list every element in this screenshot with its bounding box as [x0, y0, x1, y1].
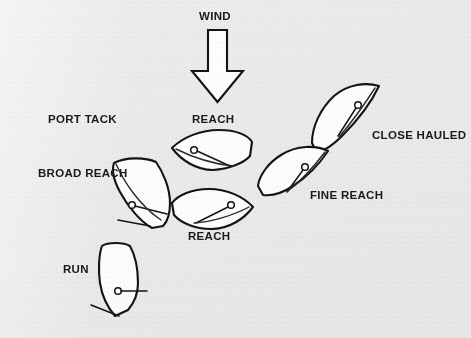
mast-close-hauled — [355, 102, 362, 109]
mast-reach-lower — [228, 202, 235, 209]
boat-run — [91, 243, 147, 316]
label-fine-reach: FINE REACH — [310, 190, 383, 202]
label-close-hauled: CLOSE HAULED — [372, 130, 466, 142]
label-port-tack: PORT TACK — [48, 114, 117, 126]
points-of-sail-figure: WIND PORT TACK REACH CLOSE HAULED BROAD … — [0, 0, 471, 338]
boat-fine-reach — [258, 147, 328, 195]
mast-broad-reach — [129, 202, 136, 209]
wind-arrow-icon — [192, 30, 243, 102]
boat-close-hauled — [312, 84, 379, 153]
boat-reach-lower — [172, 189, 253, 229]
label-reach-lower: REACH — [188, 231, 230, 243]
label-reach-upper: REACH — [192, 114, 234, 126]
boat-reach-upper — [172, 130, 252, 170]
label-broad-reach: BROAD REACH — [38, 168, 128, 180]
label-wind: WIND — [199, 11, 231, 23]
mast-fine-reach — [302, 164, 309, 171]
mast-reach-upper — [191, 147, 198, 154]
label-run: RUN — [63, 264, 89, 276]
